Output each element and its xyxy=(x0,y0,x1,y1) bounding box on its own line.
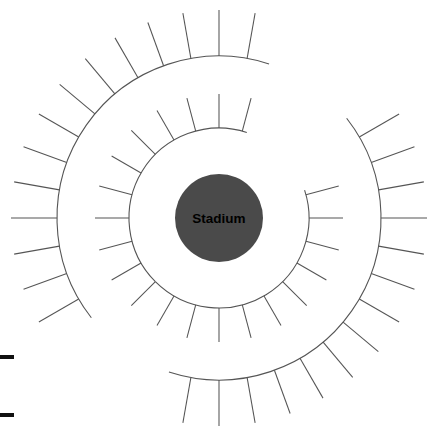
outer-ring-spoke xyxy=(247,378,255,423)
inner-ring-spoke xyxy=(157,111,174,140)
inner-ring-spoke xyxy=(306,241,339,250)
inner-ring-spoke xyxy=(157,296,174,325)
outer-ring-spoke xyxy=(148,23,164,66)
inner-ring-spoke xyxy=(112,263,141,280)
outer-ring-spoke xyxy=(247,13,255,58)
outer-ring-spoke xyxy=(371,273,414,289)
outer-ring-spoke xyxy=(343,322,378,352)
outer-ring-spoke xyxy=(14,246,59,254)
outer-ring-spoke xyxy=(85,59,115,94)
inner-ring-spoke xyxy=(99,186,132,195)
diagram-canvas: Stadium xyxy=(0,0,434,430)
inner-ring-spoke xyxy=(99,241,132,250)
inner-ring-spoke xyxy=(297,263,326,280)
inner-ring-spoke xyxy=(187,305,196,338)
inner-ring-spoke xyxy=(112,156,141,173)
outer-ring-spoke xyxy=(379,182,424,190)
inner-ring-spoke xyxy=(242,98,251,131)
outer-ring-spoke xyxy=(323,342,353,377)
outer-ring-spoke xyxy=(39,299,79,322)
edge-marks xyxy=(0,355,14,417)
stadium-ring-diagram: Stadium xyxy=(0,0,434,430)
outer-ring-spoke xyxy=(379,246,424,254)
inner-ring-spoke xyxy=(264,296,281,325)
outer-ring-spoke xyxy=(60,84,95,114)
outer-ring-spoke xyxy=(115,38,138,78)
inner-ring-spoke xyxy=(131,282,155,306)
outer-ring-spoke xyxy=(274,370,290,413)
outer-ring-spoke xyxy=(371,147,414,163)
outer-ring-spoke xyxy=(14,182,59,190)
inner-ring-spoke xyxy=(283,282,307,306)
outer-ring-spoke xyxy=(359,114,399,137)
outer-ring-spoke xyxy=(300,358,323,398)
outer-ring-spoke xyxy=(24,273,67,289)
inner-ring-spoke xyxy=(306,186,339,195)
outer-ring-spoke xyxy=(183,378,191,423)
inner-ring-spoke xyxy=(187,98,196,131)
edge-mark-upper xyxy=(0,355,14,359)
outer-ring-spoke xyxy=(24,147,67,163)
edge-mark-lower xyxy=(0,413,14,417)
outer-ring-spoke xyxy=(39,114,79,137)
stadium-hub-label: Stadium xyxy=(192,211,245,226)
outer-ring-spoke xyxy=(183,13,191,58)
inner-ring-spoke xyxy=(131,130,155,154)
inner-ring-spoke xyxy=(242,305,251,338)
outer-ring-spoke xyxy=(359,299,399,322)
